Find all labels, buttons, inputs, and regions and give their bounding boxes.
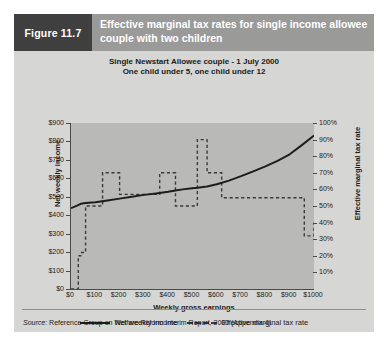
y-tickmark-right-0 [313, 272, 317, 273]
y-tick-left-9: $900 [22, 119, 64, 127]
y-tick-left-5: $500 [22, 193, 64, 201]
y-tickmark-right-2 [313, 239, 317, 240]
x-tick-10: $1000 [293, 291, 333, 299]
figure-title: Effective marginal tax rates for single … [100, 18, 368, 45]
y-tick-right-6: 70% [319, 169, 359, 177]
y-tickmark-right-8 [313, 140, 317, 141]
y-tick-right-7: 80% [319, 152, 359, 160]
y-tick-left-1: $100 [22, 267, 64, 275]
figure-panel: Figure 11.7 Effective marginal tax rates… [14, 14, 374, 332]
y-tick-left-6: $600 [22, 174, 64, 182]
y-tickmark-left-9 [66, 123, 70, 124]
y-tick-left-7: $700 [22, 156, 64, 164]
y-tick-right-5: 60% [319, 185, 359, 193]
y-tickmark-left-7 [66, 160, 70, 161]
source-divider [22, 309, 366, 310]
chart-canvas [71, 123, 314, 289]
y-tick-right-8: 90% [319, 136, 359, 144]
figure-number-block: Figure 11.7 [14, 14, 92, 51]
source-text: Reference Group on Welfare Reform Interi… [47, 319, 273, 326]
y-tick-right-1: 20% [319, 252, 359, 260]
y-tickmark-left-3 [66, 234, 70, 235]
figure-body: Single Newstart Allowee couple - 1 July … [14, 51, 374, 332]
y-tickmark-left-0 [66, 289, 70, 290]
x-axis-label: Weekly gross earnings [14, 303, 374, 312]
y-tickmark-left-8 [66, 141, 70, 142]
source-prefix: Source: [23, 319, 47, 326]
y-tick-left-4: $400 [22, 211, 64, 219]
source-note: Source: Reference Group on Welfare Refor… [23, 319, 273, 326]
y-tickmark-right-3 [313, 223, 317, 224]
y-tickmark-left-1 [66, 271, 70, 272]
y-tickmark-left-4 [66, 215, 70, 216]
y-tickmark-left-2 [66, 252, 70, 253]
plot-area [70, 123, 314, 290]
y-tick-right-2: 30% [319, 235, 359, 243]
y-tickmark-right-5 [313, 189, 317, 190]
y-tickmark-right-4 [313, 206, 317, 207]
y-tickmark-left-6 [66, 178, 70, 179]
y-tick-right-4: 50% [319, 202, 359, 210]
y-tickmark-right-7 [313, 156, 317, 157]
y-tick-right-3: 40% [319, 219, 359, 227]
emtr-series-line [71, 140, 314, 289]
y-tick-left-8: $800 [22, 137, 64, 145]
y-tick-right-9: 100% [319, 119, 359, 127]
chart-subtitle-block: Single Newstart Allowee couple - 1 July … [14, 57, 374, 77]
chart-title-line2: One child under 5, one child under 12 [14, 67, 374, 77]
y-tick-left-3: $300 [22, 230, 64, 238]
y-tickmark-left-5 [66, 197, 70, 198]
y-tickmark-right-6 [313, 173, 317, 174]
y-tickmark-right-9 [313, 123, 317, 124]
chart-title-line1: Single Newstart Allowee couple - 1 July … [14, 57, 374, 67]
figure-header: Figure 11.7 Effective marginal tax rates… [14, 14, 374, 51]
y-tick-right-0: 10% [319, 268, 359, 276]
y-tick-left-2: $200 [22, 248, 64, 256]
figure-number-label: Figure 11.7 [24, 27, 81, 39]
y-tickmark-right-1 [313, 256, 317, 257]
